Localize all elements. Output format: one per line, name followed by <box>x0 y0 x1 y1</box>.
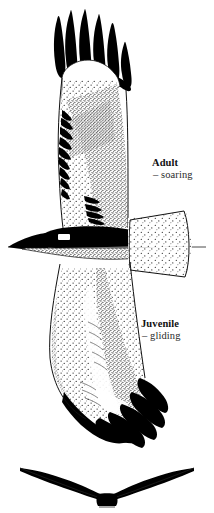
silhouette-left-wing-upper-edge <box>20 468 106 500</box>
illustration-plate: Adult – soaring Juvenile – gliding <box>0 0 214 513</box>
label-juvenile-subtitle: – gliding <box>141 330 181 342</box>
head-on-dihedral-silhouette <box>20 468 194 507</box>
tail-lower <box>126 244 198 280</box>
raptor-illustration <box>0 0 214 513</box>
silhouette-body <box>97 493 118 506</box>
silhouette-right-wing-upper-edge <box>108 468 194 500</box>
body-white-patch <box>58 234 70 240</box>
label-adult-title: Adult <box>152 157 193 169</box>
head-and-beak <box>8 233 48 250</box>
label-adult: Adult – soaring <box>152 157 193 182</box>
label-adult-subtitle: – soaring <box>152 169 193 181</box>
juvenile-gliding-wing <box>44 262 168 448</box>
adult-soaring-wing <box>50 9 146 240</box>
label-juvenile: Juvenile – gliding <box>141 318 181 343</box>
label-juvenile-title: Juvenile <box>141 318 181 330</box>
